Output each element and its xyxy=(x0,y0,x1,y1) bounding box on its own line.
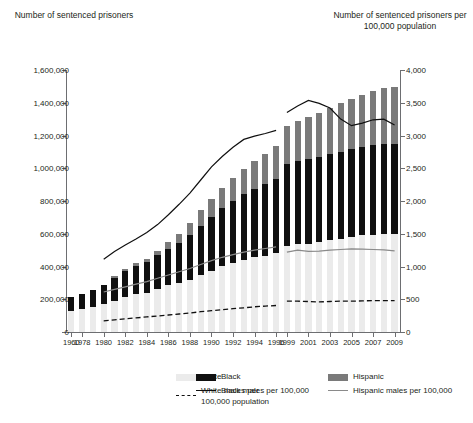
legend-item-black: Black xyxy=(196,372,241,383)
bar-segment-black xyxy=(101,285,107,305)
right-axis-title: Number of sentenced prisoners per 100,00… xyxy=(330,10,470,32)
y-tick-label-left: 1,000,000 xyxy=(33,164,69,173)
legend-item-hispanic-rate: Hispanic males per 100,000 xyxy=(328,386,452,397)
y-tick-right xyxy=(401,136,405,137)
legend-item-hispanic: Hispanic xyxy=(328,372,384,383)
bar-segment-white xyxy=(208,271,214,332)
x-tick xyxy=(82,333,83,337)
legend-label-black: Black xyxy=(221,372,241,383)
bar-segment-black xyxy=(68,297,74,311)
legend-dashed-line-icon xyxy=(176,395,196,396)
bar-segment-black xyxy=(359,147,365,235)
table-row xyxy=(241,169,247,332)
x-tick xyxy=(308,333,309,337)
x-tick-label: 1982 xyxy=(117,338,134,347)
bar-segment-black xyxy=(241,194,247,260)
table-row xyxy=(370,91,376,332)
x-tick-label: 1994 xyxy=(246,338,263,347)
x-tick-label: 2003 xyxy=(322,338,339,347)
x-tick xyxy=(330,333,331,337)
y-tick-label-left: 600,000 xyxy=(40,229,69,238)
x-tick-label: 2001 xyxy=(300,338,317,347)
bar-segment-hispanic xyxy=(348,99,354,150)
bar-segment-white xyxy=(79,309,85,332)
table-row xyxy=(187,223,193,332)
legend-gray-line-icon xyxy=(328,390,348,391)
table-row xyxy=(273,146,279,332)
bar-segment-black xyxy=(251,189,257,258)
bar-segment-black xyxy=(273,179,279,254)
bar-segment-black xyxy=(381,144,387,234)
bar-segment-black xyxy=(176,243,182,283)
bar-segment-white xyxy=(359,235,365,332)
bar-segment-white xyxy=(219,266,225,332)
bar-segment-black xyxy=(327,154,333,240)
bar-segment-white xyxy=(241,260,247,332)
y-tick-label-right: 1,500 xyxy=(406,229,426,238)
bar-segment-black xyxy=(230,201,236,263)
bar-segment-white xyxy=(122,297,128,332)
legend-swatch-black xyxy=(196,374,216,381)
table-row xyxy=(79,294,85,332)
bar-segment-white xyxy=(111,301,117,332)
table-row xyxy=(198,210,204,332)
bar-segment-white xyxy=(187,280,193,332)
bar-segment-black xyxy=(165,249,171,286)
bar-segment-black xyxy=(219,208,225,266)
table-row xyxy=(327,108,333,332)
bar-segment-white xyxy=(198,275,204,332)
bar-segment-black xyxy=(90,290,96,307)
bar-segment-white xyxy=(284,246,290,332)
x-tick xyxy=(190,333,191,337)
table-row xyxy=(381,88,387,332)
bar-segment-hispanic xyxy=(144,259,150,262)
x-tick xyxy=(104,333,105,337)
x-tick-label: 2005 xyxy=(343,338,360,347)
bar-segment-black xyxy=(144,262,150,292)
table-row xyxy=(348,99,354,332)
y-tick-label-right: 0 xyxy=(406,328,410,337)
bar-segment-black xyxy=(316,157,322,242)
y-tick-label-right: 2,000 xyxy=(406,197,426,206)
table-row xyxy=(230,178,236,332)
bar-segment-white xyxy=(251,257,257,332)
table-row xyxy=(391,87,397,332)
x-tick xyxy=(125,333,126,337)
x-tick xyxy=(255,333,256,337)
bar-segment-white xyxy=(176,283,182,332)
x-tick-label: 1992 xyxy=(225,338,242,347)
bar-segment-hispanic xyxy=(122,269,128,271)
legend-label-hispanic-rate: Hispanic males per 100,000 xyxy=(353,386,452,397)
table-row xyxy=(251,161,257,332)
legend-label-white-rate-l2: 100,000 population xyxy=(201,397,269,406)
bar-segment-hispanic xyxy=(338,103,344,152)
bar-segment-hispanic xyxy=(219,188,225,208)
bar-segment-hispanic xyxy=(208,199,214,217)
table-row xyxy=(144,259,150,332)
table-row xyxy=(90,290,96,332)
table-row xyxy=(295,121,301,332)
legend-swatch-white xyxy=(176,374,196,381)
y-tick-label-left: 1,400,000 xyxy=(33,98,69,107)
bar-segment-white xyxy=(391,234,397,332)
table-row xyxy=(154,251,160,332)
y-tick-label-right: 3,000 xyxy=(406,131,426,140)
y-tick-right xyxy=(401,168,405,169)
legend-item-black-rate: Black males per 100,000 xyxy=(196,386,309,397)
bar-segment-hispanic xyxy=(391,87,397,143)
x-tick xyxy=(147,333,148,337)
y-tick-label-left: 800,000 xyxy=(40,197,69,206)
bar-segment-black xyxy=(348,149,354,237)
x-tick-label: 1986 xyxy=(160,338,177,347)
x-tick-label: 1990 xyxy=(203,338,220,347)
bar-segment-hispanic xyxy=(370,91,376,145)
bar-segment-hispanic xyxy=(251,161,257,189)
table-row xyxy=(284,126,290,332)
x-tick xyxy=(168,333,169,337)
bar-segment-hispanic xyxy=(111,276,117,278)
bar-segment-hispanic xyxy=(165,242,171,249)
y-tick-label-right: 1,000 xyxy=(406,262,426,271)
y-tick-right xyxy=(401,234,405,235)
x-tick-label: 1984 xyxy=(138,338,155,347)
bar-segment-hispanic xyxy=(262,154,268,184)
